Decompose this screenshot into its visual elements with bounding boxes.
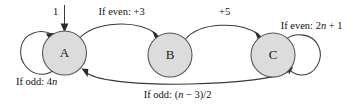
a-to-b-path <box>79 24 157 38</box>
b-to-c-label: +5 <box>201 6 244 17</box>
a-self-loop-label: If odd: 4n <box>0 76 70 87</box>
c-to-a-path <box>87 71 289 84</box>
state-label-c: C <box>269 47 278 62</box>
start-label: 1 <box>35 6 72 17</box>
c-to-a-label: If odd: (n − 3)/2 <box>125 89 224 101</box>
state-node-c[interactable]: C <box>251 33 295 77</box>
c-self-loop-label: If even: 2n + 1 <box>262 20 355 31</box>
a-to-b-edge <box>79 24 162 38</box>
state-node-b[interactable]: B <box>148 33 192 77</box>
b-to-c-path <box>186 25 260 39</box>
state-node-a[interactable]: A <box>43 31 87 75</box>
state-label-b: B <box>166 47 175 62</box>
b-to-c-edge <box>186 25 265 39</box>
c-to-a-arrow-head <box>82 69 89 78</box>
state-machine-diagram: 1 If odd: 4n If even: +3 +5 <box>0 0 357 104</box>
diagram-canvas: 1 If odd: 4n If even: +3 +5 <box>0 0 357 104</box>
a-to-b-label: If even: +3 <box>80 6 158 17</box>
state-label-a: A <box>60 45 70 60</box>
